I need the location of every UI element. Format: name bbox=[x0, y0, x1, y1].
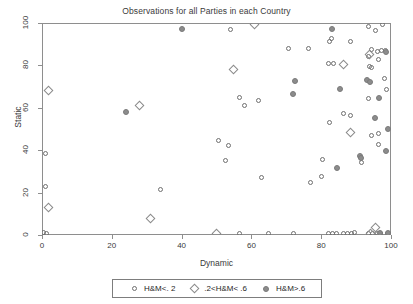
y-axis-tick-label: 0 bbox=[21, 222, 30, 248]
data-point bbox=[290, 91, 296, 97]
data-point bbox=[366, 96, 371, 101]
x-axis-tick-label: 100 bbox=[376, 241, 406, 250]
circle-filled-icon bbox=[261, 284, 271, 294]
data-point bbox=[223, 158, 228, 163]
data-point bbox=[266, 231, 271, 235]
data-point bbox=[327, 120, 332, 125]
data-point bbox=[331, 61, 336, 66]
data-point bbox=[256, 98, 261, 103]
data-point bbox=[385, 230, 391, 235]
data-point bbox=[373, 28, 378, 33]
legend-entry: .2<H&M< .6 bbox=[189, 284, 247, 294]
data-point bbox=[349, 231, 354, 235]
data-point bbox=[384, 87, 389, 92]
y-axis-tick-mark bbox=[38, 150, 42, 151]
data-point bbox=[337, 86, 343, 92]
data-point bbox=[135, 101, 145, 111]
data-point bbox=[346, 127, 356, 137]
x-axis-tick-mark bbox=[251, 235, 252, 239]
data-point bbox=[341, 111, 346, 116]
data-point bbox=[358, 155, 364, 161]
data-point bbox=[376, 95, 382, 101]
data-point bbox=[329, 26, 335, 32]
data-point bbox=[380, 23, 385, 27]
x-axis-tick-mark bbox=[321, 235, 322, 239]
data-point bbox=[216, 138, 221, 143]
chart-legend: H&M<. 2.2<H&M< .6H&M>.6 bbox=[112, 279, 322, 298]
data-point bbox=[382, 76, 387, 81]
data-point bbox=[369, 65, 374, 70]
legend-entry: H&M>.6 bbox=[261, 284, 305, 294]
data-point bbox=[359, 160, 364, 165]
data-point bbox=[385, 126, 391, 132]
legend-marker bbox=[132, 286, 137, 291]
x-axis-tick-label: 80 bbox=[306, 241, 336, 250]
x-axis-tick-mark bbox=[112, 235, 113, 239]
data-point bbox=[367, 79, 373, 85]
data-point bbox=[308, 180, 313, 185]
x-axis-tick-mark bbox=[182, 235, 183, 239]
data-point bbox=[158, 187, 163, 192]
data-point bbox=[44, 86, 54, 96]
y-axis-tick-mark bbox=[38, 193, 42, 194]
data-point bbox=[339, 59, 349, 69]
data-point bbox=[228, 27, 233, 32]
data-point bbox=[348, 39, 353, 44]
data-point bbox=[237, 231, 242, 235]
data-point bbox=[376, 131, 381, 136]
x-axis-tick-mark bbox=[42, 235, 43, 239]
data-point bbox=[250, 23, 260, 29]
data-point bbox=[366, 24, 371, 29]
data-point bbox=[372, 115, 378, 121]
data-point bbox=[348, 113, 353, 118]
legend-marker bbox=[263, 286, 269, 292]
data-point bbox=[334, 165, 340, 171]
data-point bbox=[44, 202, 54, 212]
y-axis-tick-mark bbox=[38, 108, 42, 109]
legend-entry: H&M<. 2 bbox=[129, 284, 175, 294]
data-point bbox=[43, 184, 48, 189]
data-point bbox=[212, 228, 222, 235]
x-axis-tick-label: 20 bbox=[97, 241, 127, 250]
chart-title: Observations for all Parties in each Cou… bbox=[0, 6, 413, 16]
data-point bbox=[306, 46, 311, 51]
x-axis-tick-label: 40 bbox=[167, 241, 197, 250]
data-point bbox=[376, 57, 381, 62]
data-point bbox=[376, 142, 381, 147]
legend-label: .2<H&M< .6 bbox=[204, 284, 247, 293]
y-axis-tick-mark bbox=[38, 235, 42, 236]
data-point bbox=[383, 148, 389, 154]
data-point bbox=[226, 143, 231, 148]
y-axis-tick-label: 100 bbox=[21, 10, 30, 36]
data-point bbox=[237, 95, 242, 100]
data-point bbox=[44, 231, 49, 235]
data-point bbox=[319, 174, 324, 179]
data-point bbox=[334, 231, 339, 235]
legend-marker bbox=[189, 284, 199, 294]
data-point bbox=[242, 103, 247, 108]
x-axis-tick-label: 0 bbox=[27, 241, 57, 250]
data-point bbox=[327, 39, 332, 44]
y-axis-label: Static bbox=[13, 87, 23, 147]
data-point bbox=[326, 61, 331, 66]
circle-open-icon bbox=[129, 284, 139, 294]
x-axis-tick-label: 60 bbox=[236, 241, 266, 250]
x-axis-label: Dynamic bbox=[42, 258, 391, 268]
x-axis-tick-mark bbox=[391, 235, 392, 239]
data-point bbox=[292, 78, 298, 84]
y-axis-tick-mark bbox=[38, 65, 42, 66]
scatter-plot-figure: Observations for all Parties in each Cou… bbox=[0, 0, 413, 304]
data-point bbox=[123, 109, 129, 115]
y-axis-tick-mark bbox=[38, 23, 42, 24]
data-point bbox=[291, 231, 296, 235]
y-axis-tick-label: 20 bbox=[21, 179, 30, 205]
diamond-open-icon bbox=[189, 284, 199, 294]
legend-label: H&M<. 2 bbox=[144, 284, 175, 293]
data-point bbox=[286, 46, 291, 51]
data-point bbox=[369, 133, 374, 138]
data-point bbox=[229, 65, 239, 75]
data-point bbox=[179, 26, 185, 32]
data-points-layer bbox=[42, 23, 391, 235]
data-point bbox=[145, 213, 155, 223]
data-point bbox=[383, 49, 389, 55]
